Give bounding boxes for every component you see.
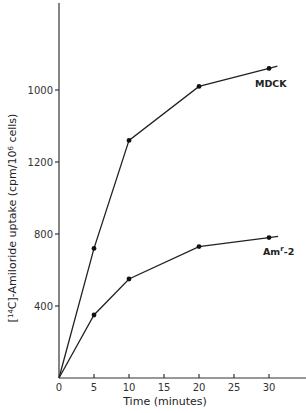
- x-tick-label: 0: [56, 382, 62, 393]
- y-ticks: 40080012001000: [28, 85, 59, 312]
- series-mdck: MDCK: [59, 66, 287, 378]
- x-axis-title: Time (minutes): [122, 395, 207, 408]
- series-amr-2: Amr-2: [59, 235, 294, 378]
- x-tick-label: 10: [123, 382, 136, 393]
- x-tick-label: 5: [91, 382, 97, 393]
- data-point: [197, 84, 202, 89]
- axes: [59, 3, 306, 378]
- data-point: [92, 246, 97, 251]
- data-point: [127, 277, 132, 282]
- data-point: [197, 244, 202, 249]
- x-tick-label: 20: [193, 382, 206, 393]
- x-tick-label: 25: [228, 382, 241, 393]
- y-tick-label: 400: [34, 301, 53, 312]
- data-point: [92, 313, 97, 318]
- y-title-rest: ]-Amiloride uptake (cpm/10: [6, 151, 19, 302]
- x-tick-label: 15: [158, 382, 171, 393]
- y-tick-label: 1000: [28, 85, 53, 96]
- y-title-tail: cells): [6, 114, 19, 146]
- series-label: MDCK: [255, 78, 287, 89]
- y-tick-label: 1200: [28, 157, 53, 168]
- uptake-chart: 051015202530 40080012001000 MDCKAmr-2 Ti…: [0, 0, 306, 413]
- series-line: [59, 66, 277, 378]
- data-point: [267, 235, 272, 240]
- series-group: MDCKAmr-2: [59, 66, 294, 378]
- x-ticks: 051015202530: [56, 374, 276, 393]
- data-point: [267, 66, 272, 71]
- y-axis-title: [14C]-Amiloride uptake (cpm/106 cells): [6, 114, 19, 323]
- x-tick-label: 30: [263, 382, 276, 393]
- series-label: Amr-2: [263, 245, 294, 257]
- data-point: [127, 138, 132, 143]
- y-tick-label: 800: [34, 229, 53, 240]
